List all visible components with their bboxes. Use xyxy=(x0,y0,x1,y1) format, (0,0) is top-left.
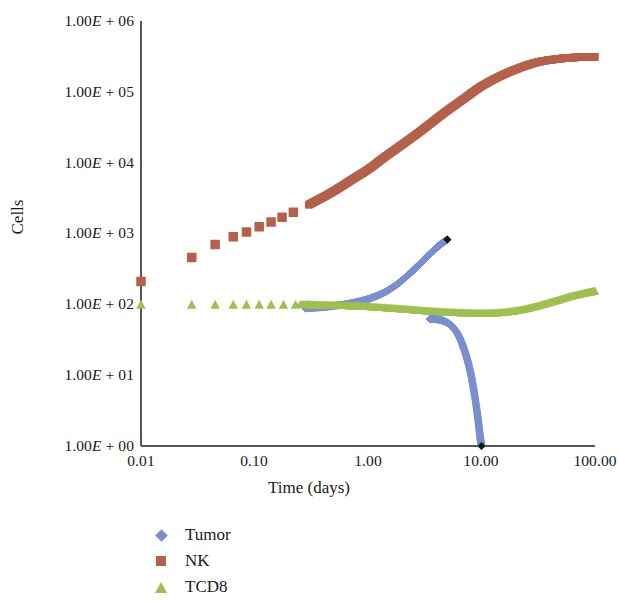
series-tumor-decline-branch- xyxy=(426,315,486,450)
legend-label: TCD8 xyxy=(185,577,228,597)
y-tick-label: 1.00E + 03 xyxy=(64,224,134,242)
legend-item-tcd8[interactable]: TCD8 xyxy=(150,574,231,600)
legend-label: Tumor xyxy=(185,525,231,545)
chart-legend: Tumor NK TCD8 xyxy=(150,522,231,600)
series-layer xyxy=(136,53,599,450)
x-tick-label: 100.00 xyxy=(573,452,616,470)
y-tick-label: 1.00E + 04 xyxy=(64,154,134,172)
x-tick-label: 0.10 xyxy=(240,452,268,470)
x-tick-label: 1.00 xyxy=(354,452,382,470)
y-tick-label: 1.00E + 05 xyxy=(64,83,134,101)
diamond-icon xyxy=(150,531,172,540)
y-tick-label: 1.00E + 06 xyxy=(64,12,134,30)
y-tick-label: 1.00E + 01 xyxy=(64,366,134,384)
x-tick-label: 10.00 xyxy=(463,452,498,470)
triangle-icon xyxy=(150,582,172,593)
tumor-immune-dynamics-chart: 1.00E + 06 1.00E + 05 1.00E + 04 1.00E +… xyxy=(0,0,618,601)
x-axis-title: Time (days) xyxy=(0,478,618,498)
square-icon xyxy=(150,556,172,566)
y-axis-title: Cells xyxy=(8,177,28,257)
y-tick-label: 1.00E + 02 xyxy=(64,295,134,313)
series-tumor xyxy=(301,236,451,313)
legend-item-tumor[interactable]: Tumor xyxy=(150,522,231,548)
legend-item-nk[interactable]: NK xyxy=(150,548,231,574)
legend-label: NK xyxy=(185,551,210,571)
series-nk xyxy=(136,53,599,286)
axis-lines xyxy=(141,21,595,446)
x-tick-label: 0.01 xyxy=(127,452,155,470)
y-tick-label: 1.00E + 00 xyxy=(64,437,134,455)
